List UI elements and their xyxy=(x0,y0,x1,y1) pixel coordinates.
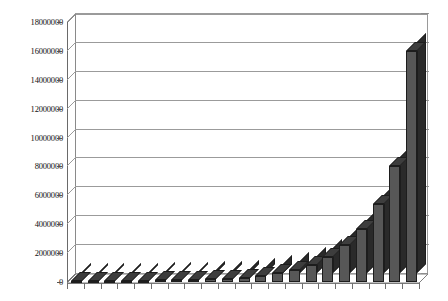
bar-front-face xyxy=(104,281,115,283)
x-axis-tick-mark xyxy=(84,283,85,289)
bar-front-face xyxy=(188,280,199,282)
right-axis-tick-mark xyxy=(421,13,428,14)
y-axis-tick-mark xyxy=(57,166,62,167)
y-axis-tick-mark xyxy=(57,22,62,23)
bar-front-face xyxy=(88,281,99,283)
bar[interactable] xyxy=(171,0,182,282)
x-axis-tick-mark xyxy=(151,283,152,289)
x-axis-tick-mark xyxy=(134,283,135,289)
bar[interactable] xyxy=(339,0,350,282)
bar[interactable] xyxy=(71,0,82,282)
x-axis-tick-mark xyxy=(285,283,286,289)
bar-front-face xyxy=(322,257,333,282)
bar[interactable] xyxy=(205,0,216,282)
bar-front-face xyxy=(239,278,250,282)
bar[interactable] xyxy=(138,0,149,282)
bar-front-face xyxy=(71,281,82,283)
x-axis-tick-mark xyxy=(67,283,68,289)
bar-front-face xyxy=(373,204,384,282)
x-axis-tick-mark xyxy=(369,283,370,289)
bar-side-face xyxy=(417,33,426,273)
y-axis-label-group: 1800000016000000140000001200000010000000… xyxy=(0,0,63,301)
bar-front-face xyxy=(222,279,233,282)
x-axis-tick-mark xyxy=(184,283,185,289)
bar-front-face xyxy=(389,166,400,282)
x-axis-tick-mark xyxy=(251,283,252,289)
bar[interactable] xyxy=(356,0,367,282)
bar[interactable] xyxy=(255,0,266,282)
x-axis-tick-mark xyxy=(352,283,353,289)
bar[interactable] xyxy=(104,0,115,282)
bar-front-face xyxy=(205,279,216,282)
bar[interactable] xyxy=(188,0,199,282)
bar[interactable] xyxy=(88,0,99,282)
y-axis-tick-mark xyxy=(57,195,62,196)
y-axis-tick-mark xyxy=(57,282,62,283)
right-axis-tick-mark xyxy=(421,273,428,274)
y-axis-tick-mark xyxy=(57,138,62,139)
bar[interactable] xyxy=(239,0,250,282)
x-axis-tick-mark xyxy=(201,283,202,289)
bar-front-face xyxy=(306,265,317,282)
x-axis-tick-mark xyxy=(385,283,386,289)
x-axis-tick-mark xyxy=(168,283,169,289)
bar[interactable] xyxy=(322,0,333,282)
bar[interactable] xyxy=(289,0,300,282)
x-axis-tick-mark xyxy=(402,283,403,289)
x-axis-tick-mark xyxy=(318,283,319,289)
x-axis-tick-mark xyxy=(419,283,420,289)
bar-front-face xyxy=(255,276,266,282)
bar-front-face xyxy=(121,281,132,283)
y-axis-tick-mark xyxy=(57,253,62,254)
bar-front-face xyxy=(289,270,300,282)
bar[interactable] xyxy=(272,0,283,282)
x-axis-tick-mark xyxy=(101,283,102,289)
bar-front-face xyxy=(138,281,149,283)
bar-front-face xyxy=(171,280,182,282)
bar[interactable] xyxy=(406,0,417,282)
x-axis-tick-mark xyxy=(117,283,118,289)
bar-front-face xyxy=(406,51,417,282)
x-axis-tick-mark xyxy=(218,283,219,289)
x-axis-tick-mark xyxy=(235,283,236,289)
chart-container: 1800000016000000140000001200000010000000… xyxy=(0,0,448,301)
x-axis-tick-mark xyxy=(268,283,269,289)
x-axis-line xyxy=(67,283,419,284)
bar[interactable] xyxy=(306,0,317,282)
y-axis-tick-mark xyxy=(57,51,62,52)
y-axis-front-line xyxy=(67,22,68,282)
x-axis-tick-mark xyxy=(302,283,303,289)
bar[interactable] xyxy=(389,0,400,282)
bar[interactable] xyxy=(155,0,166,282)
bar[interactable] xyxy=(121,0,132,282)
bar[interactable] xyxy=(373,0,384,282)
y-axis-tick-mark xyxy=(57,80,62,81)
bar-front-face xyxy=(339,245,350,282)
bar-front-face xyxy=(272,273,283,282)
bar-front-face xyxy=(356,229,367,282)
bar-front-face xyxy=(155,280,166,282)
x-axis-tick-mark xyxy=(335,283,336,289)
y-axis-tick-mark xyxy=(57,224,62,225)
y-axis-tick-mark xyxy=(57,109,62,110)
bar[interactable] xyxy=(222,0,233,282)
